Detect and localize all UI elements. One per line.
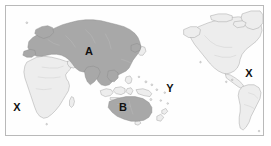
island-dot-10 xyxy=(46,123,48,125)
island-dot-11 xyxy=(225,81,227,83)
landmass-arctic-islands xyxy=(210,14,232,22)
island-dot-5 xyxy=(160,100,162,102)
island-dot-7 xyxy=(138,76,140,78)
island-dot-9 xyxy=(164,92,166,94)
island-dot-1 xyxy=(145,81,147,83)
island-dot-13 xyxy=(200,61,202,63)
map-frame: A B Y X X xyxy=(5,5,264,136)
ocean-marker-y: Y xyxy=(166,83,173,94)
world-map-graphic xyxy=(6,6,263,135)
island-dot-15 xyxy=(258,130,260,132)
world-map-figure: A B Y X X xyxy=(0,0,271,146)
ocean-marker-x-left: X xyxy=(13,102,20,113)
island-dot-12 xyxy=(231,79,233,81)
ocean-marker-x-right: X xyxy=(245,68,252,79)
island-dot-2 xyxy=(151,84,153,86)
island-dot-6 xyxy=(167,103,169,105)
region-label-b: B xyxy=(119,102,127,113)
island-dot-3 xyxy=(156,89,158,91)
island-dot-14 xyxy=(26,22,28,24)
island-dot-4 xyxy=(150,99,152,101)
region-label-a: A xyxy=(85,46,93,57)
